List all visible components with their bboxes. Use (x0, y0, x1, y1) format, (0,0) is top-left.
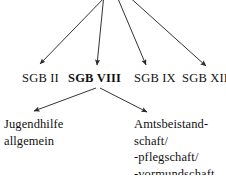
node-sgb-ix: SGB IX (134, 71, 176, 85)
level1-node-row: SGB II SGB VIII SGB IX SGB XII (0, 71, 226, 87)
edge-to-sgb-xii-line (126, 0, 206, 66)
edge-to-amtsbeistandschaft-line (100, 88, 147, 112)
node-sgb-viii: SGB VIII (68, 71, 121, 85)
leaf-line: -pflegschaft/ (134, 149, 215, 166)
sgb-hierarchy-diagram: SGB II SGB VIII SGB IX SGB XII Jugendhil… (0, 0, 226, 175)
node-jugendhilfe-allgemein: Jugendhilfe allgemein (4, 116, 63, 149)
node-sgb-ii: SGB II (22, 71, 59, 85)
edge-to-sgb-viii-line (97, 0, 104, 65)
node-sgb-xii: SGB XII (182, 71, 226, 85)
leaf-line: Amtsbeistand- (134, 116, 215, 133)
edge-to-sgb-ix-line (116, 0, 146, 65)
leaf-line: allgemein (4, 133, 63, 150)
leaf-line: Jugendhilfe (4, 116, 63, 133)
edge-to-jugendhilfe-line (34, 88, 96, 111)
leaf-line: schaft/ (134, 133, 215, 150)
edge-to-sgb-ii-line (40, 0, 108, 64)
node-amtsbeistandschaft: Amtsbeistand- schaft/ -pflegschaft/ -vor… (134, 116, 215, 175)
leaf-line: -vormundschaft (134, 166, 215, 176)
